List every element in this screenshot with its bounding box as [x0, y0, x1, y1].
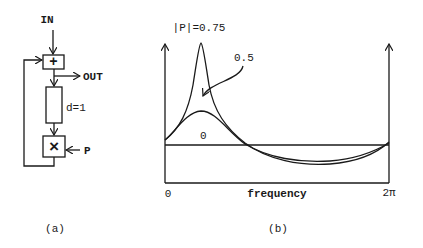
input-label: IN: [40, 14, 53, 26]
label-p05: 0.5: [234, 52, 254, 64]
delay-label: d=1: [66, 102, 86, 114]
curve-p05: [165, 111, 389, 161]
multiplier-block: ×: [43, 136, 65, 157]
output-label: OUT: [83, 71, 103, 83]
delay-block: [46, 87, 62, 123]
multiply-icon: ×: [49, 138, 59, 157]
frequency-response-plot: |P|=0.75 0.5 0 0 frequency 2π: [165, 22, 396, 200]
coefficient-label: P: [84, 145, 91, 157]
block-diagram: IN + OUT d=1 × P: [24, 14, 103, 166]
curve-p075: [165, 43, 389, 164]
figure: IN + OUT d=1 × P (a): [0, 0, 423, 248]
label-p0: 0: [200, 130, 207, 142]
x-end-label: 2π: [382, 187, 396, 199]
caption-b: (b): [268, 223, 288, 235]
plus-icon: +: [49, 54, 57, 70]
adder-block: +: [43, 54, 64, 70]
x-axis-label: frequency: [247, 188, 307, 200]
x-start-label: 0: [165, 188, 172, 200]
caption-a: (a): [45, 223, 65, 235]
label-p075: |P|=0.75: [173, 22, 226, 34]
